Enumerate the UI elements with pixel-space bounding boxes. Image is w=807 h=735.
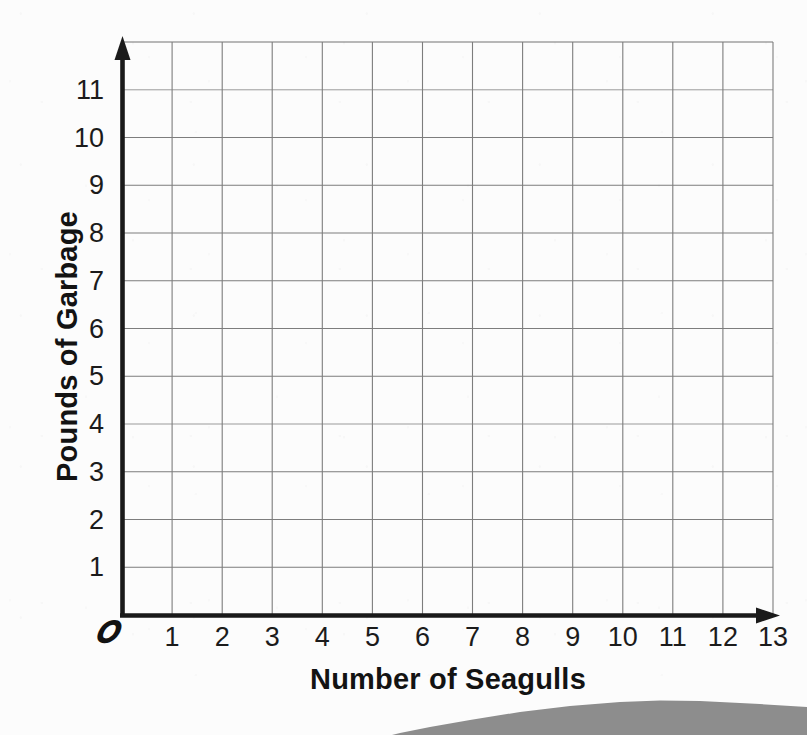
grid-lines bbox=[122, 42, 773, 615]
y-axis-title: Pounds of Garbage bbox=[51, 147, 84, 547]
x-tick-label-4: 4 bbox=[315, 624, 330, 651]
x-tick-label-5: 5 bbox=[365, 624, 380, 651]
axis-lines bbox=[115, 36, 781, 624]
x-tick-label-3: 3 bbox=[265, 624, 280, 651]
origin-zero-label: 𝑶 bbox=[95, 618, 118, 647]
x-tick-label-13: 13 bbox=[758, 624, 788, 651]
x-tick-label-6: 6 bbox=[415, 624, 430, 651]
x-tick-label-8: 8 bbox=[515, 624, 530, 651]
vertical-axis-arrowhead bbox=[115, 36, 131, 60]
x-tick-label-10: 10 bbox=[608, 624, 638, 651]
x-axis-title: Number of Seagulls bbox=[122, 663, 774, 696]
coordinate-grid-figure: 1 2 3 4 5 6 7 8 9 10 11 1 2 3 4 5 6 7 8 … bbox=[0, 0, 807, 735]
x-tick-label-2: 2 bbox=[215, 624, 230, 651]
x-tick-label-9: 9 bbox=[565, 624, 580, 651]
y-tick-label-1: 1 bbox=[58, 554, 104, 581]
y-tick-label-11: 11 bbox=[52, 76, 104, 103]
x-tick-label-12: 12 bbox=[708, 624, 738, 651]
x-tick-label-1: 1 bbox=[165, 624, 180, 651]
worksheet-page: 1 2 3 4 5 6 7 8 9 10 11 1 2 3 4 5 6 7 8 … bbox=[0, 0, 807, 735]
x-tick-label-11: 11 bbox=[659, 624, 687, 651]
x-tick-label-7: 7 bbox=[465, 624, 480, 651]
